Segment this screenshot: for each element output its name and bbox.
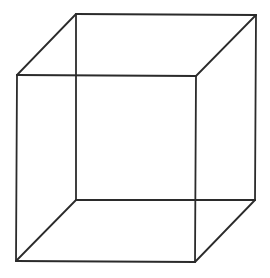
edge-front-bottom-right-to-back-bottom-right <box>195 200 255 262</box>
edge-front-top-right-to-front-bottom-right <box>195 76 196 262</box>
edge-front-bottom-right-to-front-bottom-left <box>16 261 195 262</box>
edge-front-top-right-to-back-top-right <box>196 15 256 76</box>
edge-back-top-right-to-back-bottom-right <box>255 15 256 200</box>
necker-cube-diagram <box>0 0 270 278</box>
edge-front-bottom-left-to-back-bottom-left <box>16 200 76 261</box>
edge-front-top-left-to-front-top-right <box>17 75 196 76</box>
edge-front-bottom-left-to-front-top-left <box>16 75 17 261</box>
edge-front-top-left-to-back-top-left <box>17 14 76 75</box>
cube-wireframe <box>0 0 270 278</box>
edge-back-top-left-to-back-top-right <box>76 14 256 15</box>
